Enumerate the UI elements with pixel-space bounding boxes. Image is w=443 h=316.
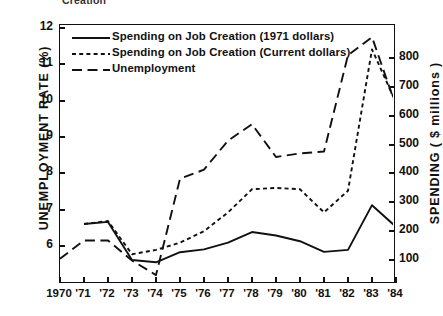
chart-legend: Spending on Job Creation (1971 dollars)S… xyxy=(70,28,340,76)
x-tick-label: '84 xyxy=(382,287,408,299)
x-tick xyxy=(395,277,397,283)
legend-label: Spending on Job Creation (1971 dollars) xyxy=(112,30,334,42)
x-tick-label: '79 xyxy=(262,287,288,299)
x-tick-label: '77 xyxy=(214,287,240,299)
x-tick-label: 1970 xyxy=(39,287,79,299)
legend-label: Spending on Job Creation (Current dollar… xyxy=(112,46,350,58)
legend-item-spending_1971: Spending on Job Creation (1971 dollars) xyxy=(70,28,340,44)
x-tick-label: '74 xyxy=(142,287,168,299)
legend-key-short-dash xyxy=(70,46,112,58)
x-tick-label: '75 xyxy=(166,287,192,299)
legend-item-unemployment: Unemployment xyxy=(70,60,340,76)
legend-label: Unemployment xyxy=(112,62,195,74)
series-line-solid xyxy=(84,205,393,262)
y-axis-right-title: SPENDING ( $ millions ) xyxy=(428,18,442,268)
y-axis-left-title: UNEMPLOYMENT RATE (%) xyxy=(37,8,51,268)
x-tick-label: '73 xyxy=(118,287,144,299)
x-tick-label: '76 xyxy=(190,287,216,299)
clipped-caption-text: Creation xyxy=(62,0,242,8)
x-tick-label: '78 xyxy=(238,287,264,299)
legend-key-long-dash xyxy=(70,62,112,74)
x-tick-label: '82 xyxy=(334,287,360,299)
x-tick-label: '81 xyxy=(310,287,336,299)
series-line-short-dash xyxy=(84,49,393,254)
x-tick-label: '71 xyxy=(70,287,96,299)
x-tick-label: '83 xyxy=(358,287,384,299)
x-tick-label: '72 xyxy=(94,287,120,299)
x-tick-label: '80 xyxy=(286,287,312,299)
legend-item-spending_current: Spending on Job Creation (Current dollar… xyxy=(70,44,340,60)
legend-key-solid xyxy=(70,30,112,42)
